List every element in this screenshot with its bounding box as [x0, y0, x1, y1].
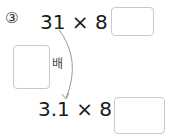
answer-box-bottom[interactable] [114, 97, 165, 134]
times-label: 배 [52, 58, 63, 70]
factor-answer-box[interactable] [13, 45, 50, 89]
